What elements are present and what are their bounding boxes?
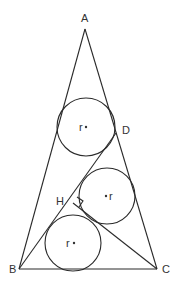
geometry-diagram: A D H B C r r r (0, 0, 173, 285)
label-a: A (81, 12, 89, 24)
side-ab (19, 29, 85, 269)
radius-label-bottom: r (66, 237, 70, 249)
side-ac (85, 29, 157, 269)
radius-label-top: r (79, 121, 83, 133)
center-dot-bottom (73, 242, 75, 244)
label-b: B (9, 263, 16, 275)
radius-label-middle: r (109, 190, 113, 202)
label-d: D (122, 124, 130, 136)
label-h: H (56, 195, 64, 207)
center-dot-middle (105, 195, 107, 197)
center-dot-top (85, 126, 87, 128)
segment-ch (73, 203, 157, 269)
label-c: C (162, 263, 170, 275)
